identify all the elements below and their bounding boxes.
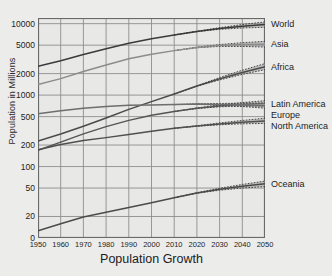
- plot-canvas: [38, 18, 265, 238]
- x-axis-tick-1970: 1970: [75, 240, 92, 249]
- x-axis-tick-2010: 2010: [166, 240, 183, 249]
- x-axis-tick-2030: 2030: [211, 240, 228, 249]
- population-growth-chart: Population in Millions 10000500020001000…: [0, 0, 332, 276]
- y-axis-tick-20: 20: [26, 211, 35, 221]
- x-axis-tick-2040: 2040: [234, 240, 251, 249]
- series-label-latin-america: Latin America: [271, 99, 326, 109]
- series-label-world: World: [271, 19, 294, 29]
- y-axis-tick-100: 100: [21, 162, 35, 172]
- series-label-asia: Asia: [271, 39, 289, 49]
- y-axis-title: Population in Millions: [7, 1, 17, 201]
- plot-area: 1000050002000100050020010050200195019601…: [38, 18, 265, 238]
- y-axis-tick-5000: 5000: [16, 40, 35, 50]
- x-axis-tick-2000: 2000: [143, 240, 160, 249]
- y-axis-tick-200: 200: [21, 140, 35, 150]
- series-label-africa: Africa: [271, 62, 294, 72]
- y-axis-tick-10000: 10000: [11, 19, 35, 29]
- x-axis-tick-1980: 1980: [98, 240, 115, 249]
- x-axis-tick-1990: 1990: [120, 240, 137, 249]
- y-axis-tick-50: 50: [26, 183, 35, 193]
- x-axis-tick-2020: 2020: [189, 240, 206, 249]
- series-label-north-america: North America: [271, 121, 328, 131]
- x-axis-title: Population Growth: [38, 252, 265, 266]
- y-axis-tick-1000: 1000: [16, 90, 35, 100]
- series-label-oceania: Oceania: [271, 179, 305, 189]
- y-axis-tick-500: 500: [21, 112, 35, 122]
- x-axis-tick-2050: 2050: [257, 240, 274, 249]
- x-axis-tick-1950: 1950: [30, 240, 47, 249]
- y-axis-tick-2000: 2000: [16, 69, 35, 79]
- series-label-europe: Europe: [271, 110, 300, 120]
- x-axis-tick-1960: 1960: [52, 240, 69, 249]
